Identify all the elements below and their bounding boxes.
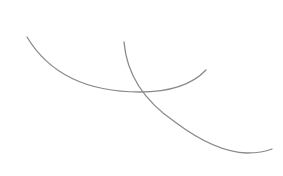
curves-svg <box>0 0 283 176</box>
curve-arc-2 <box>124 42 272 153</box>
diagram-canvas <box>0 0 283 176</box>
curve-arc-1 <box>27 37 206 92</box>
